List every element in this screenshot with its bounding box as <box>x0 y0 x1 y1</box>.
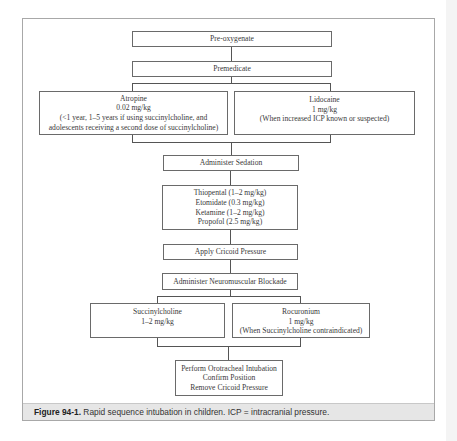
rocuronium-indication: (When Succinylcholine contraindicated) <box>233 326 369 336</box>
figure-caption: Figure 94-1. Rapid sequence intubation i… <box>23 403 434 420</box>
premedicate-label: Premedicate <box>133 64 331 74</box>
connector <box>330 134 331 142</box>
sedative-propofol: Propofol (2.5 mg/kg) <box>163 217 297 227</box>
sedative-ketamine: Ketamine (1–2 mg/kg) <box>163 208 297 218</box>
atropine-dose: 0.02 mg/kg <box>40 103 227 113</box>
figure-label: Figure 94-1. <box>34 407 81 417</box>
succinylcholine-dose: 1–2 mg/kg <box>91 317 224 327</box>
sedative-thiopental: Thiopental (1–2 mg/kg) <box>163 188 297 198</box>
connector <box>132 134 133 142</box>
cricoid-label: Apply Cricoid Pressure <box>164 247 297 257</box>
connector <box>330 83 331 91</box>
connector <box>228 346 229 360</box>
atropine-indication-2: adolescents receiving a second dose of s… <box>40 123 227 133</box>
bracket <box>157 346 301 347</box>
preoxygenate-box: Pre-oxygenate <box>132 31 332 47</box>
rocuronium-name: Rocuronium <box>233 307 369 317</box>
connector <box>231 46 232 61</box>
connector <box>230 229 231 244</box>
connector <box>132 83 133 91</box>
connector <box>230 259 231 273</box>
succinylcholine-name: Succinylcholine <box>91 307 224 317</box>
sedation-label: Administer Sedation <box>164 158 298 168</box>
connector <box>230 289 231 296</box>
blockade-label: Administer Neuromuscular Blockade <box>163 277 297 287</box>
lidocaine-indication: (When increased ICP known or suspected) <box>235 114 414 124</box>
sedation-box: Administer Sedation <box>163 155 299 171</box>
connector <box>157 296 158 303</box>
intubation-step-1: Perform Orotracheal Intubation <box>176 364 282 374</box>
rocuronium-box: Rocuronium 1 mg/kg (When Succinylcholine… <box>232 303 370 338</box>
caption-text: Rapid sequence intubation in children. I… <box>81 407 329 417</box>
connector <box>230 170 231 185</box>
intubation-box: Perform Orotracheal Intubation Confirm P… <box>175 360 283 396</box>
rocuronium-dose: 1 mg/kg <box>233 317 369 327</box>
connector <box>157 337 158 346</box>
cricoid-box: Apply Cricoid Pressure <box>163 244 298 260</box>
connector <box>231 142 232 155</box>
lidocaine-box: Lidocaine 1 mg/kg (When increased ICP kn… <box>234 91 415 135</box>
atropine-box: Atropine 0.02 mg/kg (<1 year, 1–5 years … <box>39 91 228 135</box>
bracket <box>157 296 301 297</box>
lidocaine-dose: 1 mg/kg <box>235 105 414 115</box>
intubation-step-3: Remove Cricoid Pressure <box>176 383 282 393</box>
sedative-etomidate: Etomidate (0.3 mg/kg) <box>163 198 297 208</box>
bracket <box>132 83 331 84</box>
preoxygenate-label: Pre-oxygenate <box>133 34 331 44</box>
intubation-step-2: Confirm Position <box>176 373 282 383</box>
atropine-indication-1: (<1 year, 1–5 years if using succinylcho… <box>40 113 227 123</box>
lidocaine-name: Lidocaine <box>235 95 414 105</box>
succinylcholine-box: Succinylcholine 1–2 mg/kg <box>90 303 225 338</box>
blockade-box: Administer Neuromuscular Blockade <box>162 273 298 290</box>
atropine-name: Atropine <box>40 94 227 104</box>
premedicate-box: Premedicate <box>132 61 332 77</box>
connector <box>300 296 301 303</box>
connector <box>300 337 301 346</box>
sedatives-box: Thiopental (1–2 mg/kg) Etomidate (0.3 mg… <box>162 185 298 230</box>
page-edge-shadow <box>446 0 457 441</box>
